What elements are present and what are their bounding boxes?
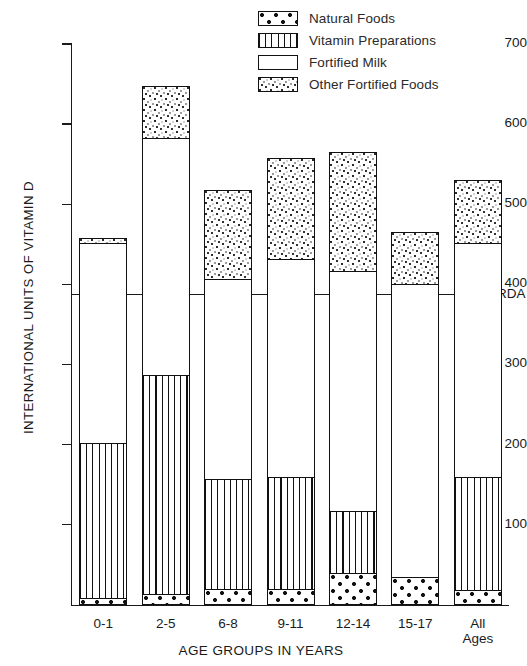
y-axis-line (71, 44, 72, 606)
legend-label-fortified-milk: Fortified Milk (309, 55, 387, 70)
legend-item-fortified-milk: Fortified Milk (258, 52, 520, 73)
legend-item-other-fortified-foods: Other Fortified Foods (258, 74, 520, 95)
bar-segment-vitamin-preparations (142, 375, 190, 594)
bar-segment-vitamin-preparations (204, 479, 252, 589)
y-tick-200 (62, 444, 72, 445)
bar-segment-natural-foods (204, 589, 252, 605)
bar-segment-other-fortified-foods (204, 190, 252, 279)
bar-segment-other-fortified-foods (329, 152, 377, 271)
legend-swatch-other-fortified-foods (258, 77, 298, 92)
y-tick-label-700: 700 (475, 35, 527, 50)
bar-segment-vitamin-preparations (267, 477, 315, 589)
bar-segment-fortified-milk (391, 284, 439, 576)
y-tick-400 (62, 284, 72, 285)
bar-9-11 (267, 158, 315, 605)
x-label-line-1: All (438, 616, 518, 631)
legend-swatch-natural-foods (258, 11, 298, 26)
bar-segment-vitamin-preparations (454, 477, 502, 591)
x-label-All: AllAges (438, 616, 518, 646)
x-axis-title: AGE GROUPS IN YEARS (71, 643, 451, 658)
legend-label-vitamin-preparations: Vitamin Preparations (309, 33, 436, 48)
bar-12-14 (329, 152, 377, 605)
bar-segment-vitamin-preparations (79, 443, 127, 598)
bar-6-8 (204, 190, 252, 605)
legend-swatch-fortified-milk (258, 55, 298, 70)
bar-All-Ages (454, 180, 502, 605)
y-tick-600 (62, 123, 72, 124)
bar-segment-natural-foods (391, 577, 439, 605)
legend-label-natural-foods: Natural Foods (309, 11, 395, 26)
bar-segment-natural-foods (329, 573, 377, 605)
bar-15-17 (391, 232, 439, 604)
bar-2-5 (142, 86, 190, 605)
bar-segment-fortified-milk (267, 259, 315, 477)
chart-legend: Natural Foods Vitamin Preparations Forti… (258, 8, 520, 96)
bar-segment-fortified-milk (142, 138, 190, 375)
y-tick-500 (62, 204, 72, 205)
y-axis-title: INTERNATIONAL UNITS OF VITAMIN D (21, 128, 36, 488)
y-tick-300 (62, 364, 72, 365)
bar-segment-natural-foods (142, 594, 190, 605)
bar-segment-other-fortified-foods (391, 232, 439, 284)
bar-segment-fortified-milk (79, 243, 127, 443)
bar-0-1 (79, 238, 127, 605)
bar-segment-fortified-milk (329, 271, 377, 511)
legend-swatch-vitamin-preparations (258, 33, 298, 48)
vitamin-d-stacked-bar-chart: Natural Foods Vitamin Preparations Forti… (0, 0, 527, 666)
bar-segment-fortified-milk (454, 243, 502, 477)
bar-segment-natural-foods (454, 590, 502, 604)
bar-segment-natural-foods (79, 598, 127, 604)
bar-segment-fortified-milk (204, 279, 252, 479)
y-tick-700 (62, 43, 72, 44)
bar-segment-natural-foods (267, 589, 315, 605)
legend-label-other-fortified-foods: Other Fortified Foods (309, 77, 439, 92)
x-axis-line (71, 605, 509, 606)
bar-segment-other-fortified-foods (267, 158, 315, 259)
bar-segment-other-fortified-foods (454, 180, 502, 242)
y-tick-100 (62, 524, 72, 525)
page-caption-sliver (18, 661, 518, 666)
y-tick-label-600: 600 (475, 115, 527, 130)
bar-segment-other-fortified-foods (142, 86, 190, 138)
legend-item-natural-foods: Natural Foods (258, 8, 520, 29)
bar-segment-vitamin-preparations (329, 511, 377, 573)
